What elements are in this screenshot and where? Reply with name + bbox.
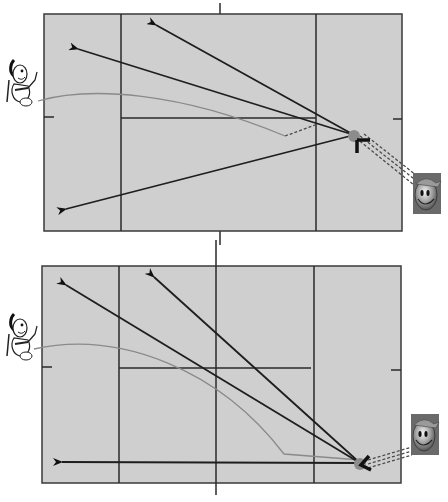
bottom-court-diagram: [34, 240, 412, 495]
court-outline: [44, 14, 402, 231]
top-court-diagram: [38, 3, 421, 245]
shot-arrow-3: [62, 462, 360, 463]
smiley-coach-icon: [413, 173, 441, 214]
smiley-coach-icon: [411, 414, 439, 455]
cartoon-player-icon: [7, 60, 37, 106]
cartoon-player-icon: [7, 314, 37, 360]
badminton-diagrams: [0, 0, 448, 502]
